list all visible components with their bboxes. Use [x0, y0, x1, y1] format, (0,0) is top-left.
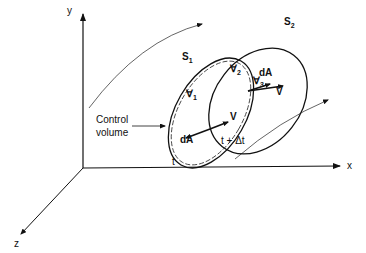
dA-left-label: dA	[180, 135, 193, 145]
z-axis-label: z	[14, 239, 19, 249]
y-axis-label: y	[67, 6, 72, 16]
control-volume-label-line1: Control	[96, 115, 128, 125]
volume-2-label: ∀2	[230, 64, 241, 76]
V-right-label: V	[276, 87, 283, 97]
dA-right-label: dA	[259, 68, 272, 78]
control-volume-diagram: y x z S1 S2 ∀1 ∀2 ∀3 dA V dA V t t + Δt …	[0, 0, 366, 253]
time-t-dt-label: t + Δt	[221, 136, 245, 146]
streamlines	[89, 24, 328, 159]
s2-label: S2	[284, 17, 295, 29]
axes	[21, 14, 340, 234]
s1-label: S1	[182, 52, 193, 64]
control-volume-label-line2: volume	[96, 128, 128, 138]
V-left-label: V	[230, 112, 237, 122]
surface-s2	[188, 29, 327, 173]
volume-1-label: ∀1	[186, 89, 197, 101]
surface-s1	[151, 44, 272, 183]
vectors	[132, 84, 283, 138]
time-t-label: t	[172, 157, 175, 167]
diagram-graphics	[0, 0, 366, 253]
x-axis-label: x	[347, 161, 352, 171]
